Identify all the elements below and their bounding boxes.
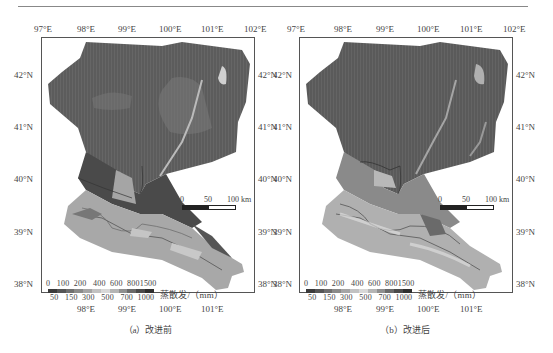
- y-tick-label: 41°N: [273, 122, 292, 132]
- scale-bar-label: 0: [438, 195, 442, 204]
- scale-bar-label: 50: [204, 195, 212, 204]
- x-tick-label: 102°E: [503, 24, 526, 34]
- x-tick-label-bottom: 99°E: [376, 304, 394, 314]
- x-tick-label: 98°E: [334, 24, 352, 34]
- scale-bar-label: 100 km: [227, 195, 251, 204]
- legend-title: 蒸散发/（mm）: [418, 288, 481, 301]
- scale-bar-white: [466, 205, 494, 210]
- y-tick-label: 38°N: [516, 279, 535, 289]
- x-tick-label: 101°E: [201, 24, 224, 34]
- x-tick-label: 99°E: [118, 24, 136, 34]
- x-tick-label-bottom: 98°E: [334, 304, 352, 314]
- legend-top-labels: 0 100 200 400 600 8001500: [46, 279, 157, 288]
- map-panel-a: 97°E 98°E 99°E 100°E 101°E 102°E: [0, 0, 276, 353]
- map-panel-b: 97°E 98°E 99°E 100°E 101°E 102°E: [277, 0, 553, 353]
- y-tick-label: 40°N: [14, 174, 33, 184]
- legend-bottom-labels: 50 150 300 500 700 1000: [50, 293, 154, 302]
- evapotranspiration-map: [42, 38, 254, 292]
- scale-bar-black: [440, 205, 468, 210]
- x-tick-label-bottom: 100°E: [159, 304, 182, 314]
- y-tick-label: 39°N: [14, 227, 33, 237]
- x-tick-label: 97°E: [34, 24, 52, 34]
- y-tick-label: 42°N: [516, 70, 535, 80]
- x-tick-label-bottom: 100°E: [417, 304, 440, 314]
- y-tick-label: 39°N: [273, 227, 292, 237]
- legend-bottom-labels: 50 150 300 500 700 1000: [308, 293, 412, 302]
- y-tick-label: 40°N: [516, 174, 535, 184]
- y-tick-label: 41°N: [516, 122, 535, 132]
- x-tick-label: 101°E: [460, 24, 483, 34]
- scale-bar-black: [182, 205, 210, 210]
- x-tick-label: 99°E: [376, 24, 394, 34]
- y-tick-label: 39°N: [516, 227, 535, 237]
- y-tick-label: 38°N: [273, 279, 292, 289]
- x-tick-label: 100°E: [417, 24, 440, 34]
- y-tick-label: 42°N: [14, 70, 33, 80]
- panel-caption: （a）改进前: [88, 323, 208, 336]
- map-frame: 0 50 100 km 0 100 200 400 600 8001500: [299, 37, 513, 293]
- x-tick-label-bottom: 101°E: [201, 304, 224, 314]
- y-tick-label: 38°N: [14, 279, 33, 289]
- scale-bar-label: 0: [180, 195, 184, 204]
- y-tick-label: 42°N: [273, 70, 292, 80]
- scale-bar-white: [208, 205, 236, 210]
- scale-bar-label: 100 km: [485, 195, 509, 204]
- panel-caption: （b）改进后: [345, 323, 465, 336]
- x-tick-label: 98°E: [77, 24, 95, 34]
- scale-bar-label: 50: [462, 195, 470, 204]
- y-tick-label: 40°N: [273, 174, 292, 184]
- y-tick-label: 41°N: [14, 122, 33, 132]
- legend-top-labels: 0 100 200 400 600 8001500: [304, 279, 415, 288]
- x-tick-label-bottom: 101°E: [460, 304, 483, 314]
- x-tick-label: 97°E: [287, 24, 305, 34]
- x-tick-label-bottom: 99°E: [118, 304, 136, 314]
- legend-title: 蒸散发/（mm）: [160, 288, 223, 301]
- x-tick-label-bottom: 98°E: [77, 304, 95, 314]
- x-tick-label: 102°E: [244, 24, 267, 34]
- x-tick-label: 100°E: [159, 24, 182, 34]
- map-frame: 0 50 100 km 0 100 200 400 600 8001500: [41, 37, 255, 293]
- evapotranspiration-map: [300, 38, 512, 292]
